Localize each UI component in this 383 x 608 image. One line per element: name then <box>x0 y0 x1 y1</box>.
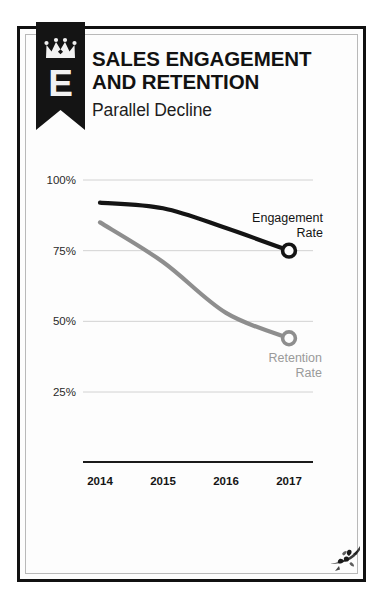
engagement-label-line-2: Rate <box>297 226 323 240</box>
x-axis-tick-label: 2016 <box>213 475 239 487</box>
chart-x-axis-ticks: 2014201520162017 <box>87 475 302 487</box>
poster-header: SALES ENGAGEMENT AND RETENTION Parallel … <box>92 48 342 121</box>
page-title: SALES ENGAGEMENT AND RETENTION <box>92 48 342 93</box>
retention-label-line-2: Rate <box>296 366 322 380</box>
x-axis-tick-label: 2014 <box>87 475 113 487</box>
chart-y-axis-ticks: 100%75%50%25% <box>47 174 76 398</box>
engagement-label-line-1: Engagement <box>252 211 323 225</box>
series-endpoint-marker <box>283 332 296 345</box>
series-annotation-retention-rate: Retention Rate <box>268 351 322 380</box>
badge-letter: E <box>48 63 73 104</box>
y-axis-tick-label: 25% <box>53 386 76 398</box>
y-axis-tick-label: 100% <box>47 174 76 186</box>
series-endpoint-marker <box>283 244 296 257</box>
series-annotation-engagement-rate: Engagement Rate <box>252 211 323 240</box>
page-subtitle: Parallel Decline <box>92 99 342 121</box>
y-axis-tick-label: 50% <box>53 315 76 327</box>
retention-label-line-1: Retention <box>268 351 322 365</box>
x-axis-tick-label: 2015 <box>150 475 176 487</box>
brand-ribbon-badge: E <box>36 22 85 130</box>
series-path <box>100 203 289 251</box>
y-axis-tick-label: 75% <box>53 245 76 257</box>
title-line-1: SALES ENGAGEMENT <box>92 47 311 70</box>
poster-canvas: E SALES ENGAGEMENT AND RETENTION Paralle… <box>0 0 383 608</box>
x-axis-tick-label: 2017 <box>276 475 302 487</box>
title-line-2: AND RETENTION <box>92 70 259 93</box>
